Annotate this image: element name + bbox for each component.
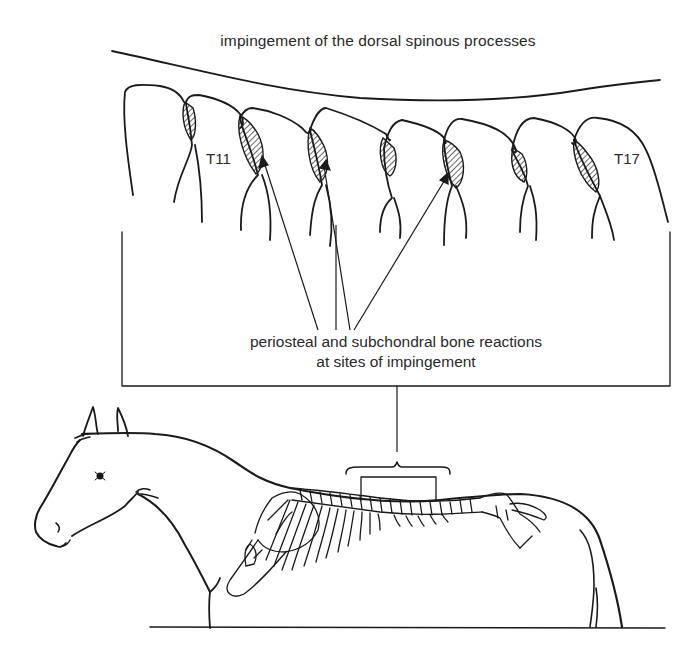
impingement-sites xyxy=(183,102,599,192)
diagram-title: impingement of the dorsal spinous proces… xyxy=(0,32,700,50)
annotation-line-2: at sites of impingement xyxy=(122,352,670,372)
impingement-site-4 xyxy=(380,138,396,176)
curly-brace xyxy=(346,462,450,474)
impingement-site-3 xyxy=(308,128,327,182)
impingement-site-7 xyxy=(574,140,599,192)
annotation-arrows xyxy=(259,156,448,330)
diagram-canvas: impingement of the dorsal spinous proces… xyxy=(0,0,700,663)
vertebra-label-t11: T11 xyxy=(206,150,231,167)
annotation-label: periosteal and subchondral bone reaction… xyxy=(122,332,670,372)
impingement-site-1 xyxy=(183,102,195,140)
vertebra-label-t17: T17 xyxy=(614,150,640,167)
back-contour-line xyxy=(112,51,660,100)
horse-skeleton xyxy=(227,488,546,596)
horse-outline xyxy=(35,407,665,628)
annotation-line-1: periosteal and subchondral bone reaction… xyxy=(122,332,670,352)
impingement-site-6 xyxy=(512,148,527,182)
